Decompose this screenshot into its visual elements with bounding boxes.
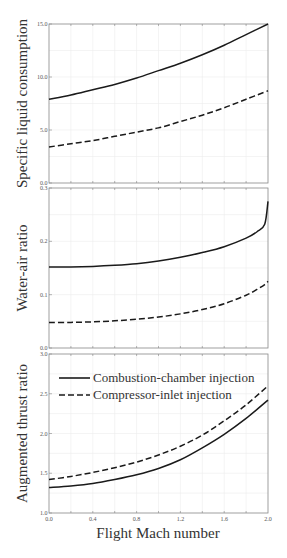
y-axis-label: Water-air ratio [14, 224, 30, 311]
y-tick-label: 2.5 [40, 391, 48, 397]
y-tick-label: 0.2 [40, 238, 48, 244]
x-tick-label: 1.6 [220, 516, 228, 522]
x-tick-label: 0.0 [45, 516, 53, 522]
y-tick-label: 5.0 [40, 127, 48, 133]
y-tick-label: 1.5 [40, 470, 48, 476]
panel-2: 0.00.10.20.3Water-air ratio [14, 185, 268, 351]
y-tick-label: 15.0 [37, 21, 48, 27]
x-axis-label: Flight Mach number [96, 525, 219, 541]
y-axis-label: Specific liquid consumption [14, 18, 30, 188]
panel-1: 0.05.010.015.0Specific liquid consumptio… [14, 18, 268, 188]
chart: 0.05.010.015.0Specific liquid consumptio… [0, 0, 287, 558]
y-tick-label: 0.3 [40, 185, 48, 191]
y-axis-label: Augmented thrust ratio [14, 364, 30, 503]
legend-label-combustion: Combustion-chamber injection [93, 370, 255, 385]
legend: Combustion-chamber injection Compressor-… [59, 370, 255, 402]
x-tick-label: 0.4 [89, 516, 97, 522]
legend-label-compressor: Compressor-inlet injection [93, 387, 232, 402]
x-tick-label: 0.8 [133, 516, 141, 522]
x-tick-label: 2.0 [264, 516, 272, 522]
y-tick-label: 2.0 [40, 431, 48, 437]
y-tick-label: 0.1 [40, 292, 48, 298]
y-tick-label: 10.0 [37, 74, 48, 80]
x-tick-label: 1.2 [177, 516, 185, 522]
y-tick-label: 3.0 [40, 351, 48, 357]
